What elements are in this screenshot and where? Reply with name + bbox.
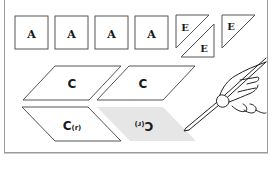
piece-label: A [26,28,36,41]
piece-label: A [106,28,116,41]
piece-label: C [144,119,153,133]
piece-label: C [63,119,72,133]
cropped-caption-area [0,160,273,171]
piece-label: E [181,22,189,33]
square-piece-a-2: A [55,16,88,49]
piece-label: A [146,28,156,41]
square-piece-a-4: A [135,16,168,49]
hand-with-pencil-icon [184,58,266,131]
piece-suffix: (r) [135,120,145,128]
piece-label: C [139,77,148,91]
piece-label: E [227,21,235,32]
piece-label: A [66,28,76,41]
square-piece-a-1: A [15,16,48,49]
triangle-piece-e-3: E [222,15,255,48]
piece-label: C [68,77,77,91]
piece-label: E [200,43,208,54]
piece-suffix: (r) [71,124,81,132]
pattern-diagram: A A A A E E E C C C(r) [0,0,273,171]
square-piece-a-3: A [95,16,128,49]
